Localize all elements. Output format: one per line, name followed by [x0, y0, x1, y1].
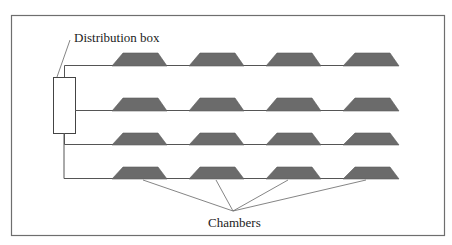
chamber [343, 53, 399, 66]
chamber [343, 133, 399, 145]
pipe-row-1 [65, 66, 399, 78]
chamber [266, 98, 321, 111]
chamber [266, 167, 321, 179]
chamber [266, 53, 321, 66]
chamber [112, 167, 167, 179]
septic-layout-diagram: Distribution box Chambers [0, 0, 452, 245]
chamber [343, 98, 399, 111]
chamber [112, 53, 167, 66]
chamber [189, 98, 244, 111]
leader-distribution-box [57, 40, 70, 77]
distribution-box-label: Distribution box [74, 30, 160, 45]
chamber [189, 167, 244, 179]
chamber [112, 133, 167, 145]
chamber [189, 53, 244, 66]
chamber [266, 133, 321, 145]
chambers-group [112, 53, 399, 179]
leader-chamber-3 [233, 180, 288, 211]
chambers-label: Chambers [208, 215, 261, 230]
chamber [343, 167, 399, 179]
leader-chamber-4 [233, 180, 366, 211]
distribution-box [54, 78, 76, 134]
chamber [189, 133, 244, 145]
chamber [112, 98, 167, 111]
leader-chamber-1 [143, 180, 233, 211]
